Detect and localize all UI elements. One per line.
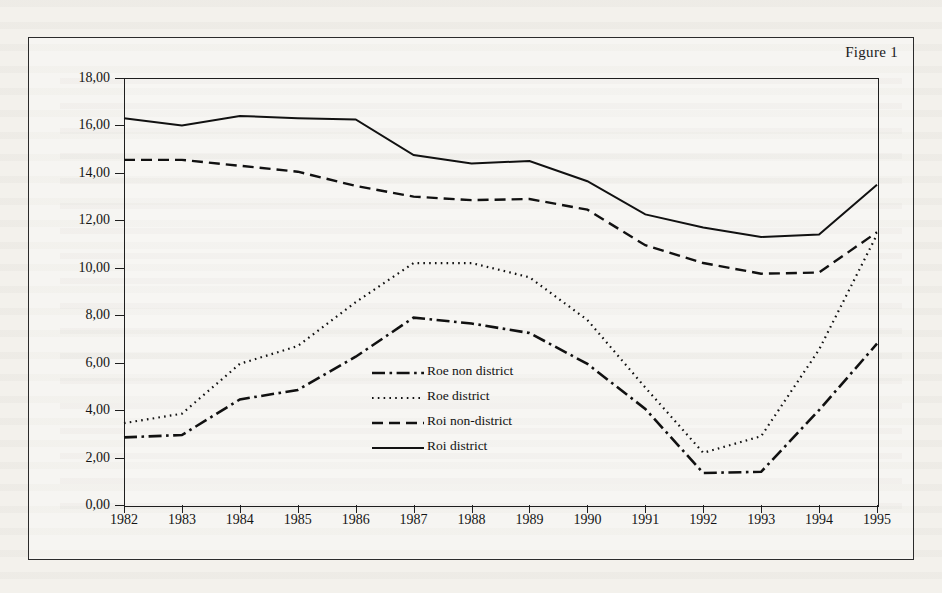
x-axis-tick-label: 1986 <box>342 512 370 528</box>
x-axis-tick-mark <box>703 505 704 513</box>
y-axis-tick-mark <box>115 125 124 126</box>
legend-line-swatch <box>372 415 424 427</box>
y-axis-tick-mark <box>115 315 124 316</box>
x-axis-tick-label: 1984 <box>226 512 254 528</box>
x-axis-tick-label: 1995 <box>863 512 891 528</box>
x-axis-tick-mark <box>819 505 820 513</box>
x-axis-tick-mark <box>877 505 878 513</box>
y-axis-tick-label: 4,00 <box>48 402 110 418</box>
y-axis-tick-mark <box>115 78 124 79</box>
x-axis-tick-label: 1994 <box>805 512 833 528</box>
x-axis-tick-mark <box>240 505 241 513</box>
x-axis-tick-label: 1989 <box>515 512 543 528</box>
x-axis-tick-label: 1992 <box>689 512 717 528</box>
y-axis-tick-mark <box>115 220 124 221</box>
x-axis-tick-label: 1985 <box>284 512 312 528</box>
x-axis-tick-mark <box>298 505 299 513</box>
legend-line-swatch <box>372 365 424 377</box>
y-axis-tick-label: 16,00 <box>48 117 110 133</box>
y-axis-tick-label: 2,00 <box>48 450 110 466</box>
legend-item-roe-non-district: Roe non district <box>372 358 547 383</box>
y-axis-tick-label: 18,00 <box>48 70 110 86</box>
x-axis-tick-mark <box>182 505 183 513</box>
y-axis-tick-label: 6,00 <box>48 355 110 371</box>
legend-label: Roe district <box>427 388 490 404</box>
legend-item-roi-non-district: Roi non-district <box>372 408 547 433</box>
y-axis-tick-mark <box>115 458 124 459</box>
figure-caption: Figure 1 <box>845 44 898 61</box>
x-axis-tick-mark <box>529 505 530 513</box>
y-axis-tick-mark <box>115 173 124 174</box>
y-axis-tick-mark <box>115 410 124 411</box>
x-axis-tick-label: 1983 <box>168 512 196 528</box>
x-axis-tick-label: 1987 <box>400 512 428 528</box>
x-axis-tick-mark <box>587 505 588 513</box>
x-axis-tick-label: 1993 <box>747 512 775 528</box>
x-axis-tick-label: 1988 <box>458 512 486 528</box>
y-axis-tick-label: 14,00 <box>48 165 110 181</box>
x-axis-tick-label: 1982 <box>110 512 138 528</box>
chart-legend: Roe non districtRoe districtRoi non-dist… <box>372 358 547 458</box>
legend-item-roe-district: Roe district <box>372 383 547 408</box>
legend-line-swatch <box>372 390 424 402</box>
y-axis-tick-label: 8,00 <box>48 307 110 323</box>
y-axis-tick-mark <box>115 268 124 269</box>
legend-label: Roi district <box>427 438 487 454</box>
x-axis-tick-mark <box>472 505 473 513</box>
legend-label: Roe non district <box>427 363 513 379</box>
series-line-roi-district <box>124 116 877 237</box>
x-axis-tick-mark <box>124 505 125 513</box>
legend-label: Roi non-district <box>427 413 512 429</box>
y-axis-tick-mark <box>115 363 124 364</box>
y-axis-tick-label: 0,00 <box>48 497 110 513</box>
x-axis-tick-mark <box>761 505 762 513</box>
series-line-roi-non-district <box>124 160 877 274</box>
x-axis-tick-label: 1991 <box>631 512 659 528</box>
y-axis-tick-label: 12,00 <box>48 212 110 228</box>
x-axis-tick-label: 1990 <box>573 512 601 528</box>
x-axis-tick-mark <box>414 505 415 513</box>
legend-line-swatch <box>372 440 424 452</box>
y-axis-tick-mark <box>115 505 124 506</box>
x-axis-tick-mark <box>356 505 357 513</box>
y-axis-tick-label: 10,00 <box>48 260 110 276</box>
x-axis-tick-mark <box>645 505 646 513</box>
legend-item-roi-district: Roi district <box>372 433 547 458</box>
